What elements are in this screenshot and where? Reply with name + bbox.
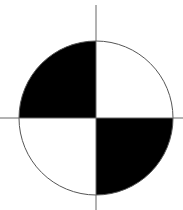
center-of-mass-diagram bbox=[0, 0, 183, 210]
quadrant-top-left bbox=[19, 41, 96, 118]
quadrant-top-right bbox=[96, 41, 173, 118]
quadrant-bottom-left bbox=[19, 118, 96, 195]
quadrant-bottom-right bbox=[96, 118, 173, 195]
